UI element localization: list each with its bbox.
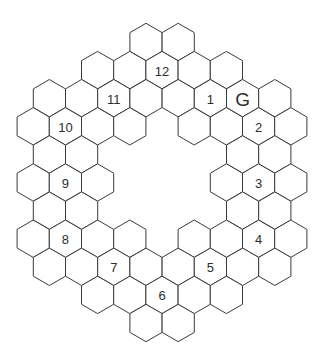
hex-grid-board: 12111G1029384756 [0, 0, 325, 359]
hex-cells [17, 23, 307, 341]
